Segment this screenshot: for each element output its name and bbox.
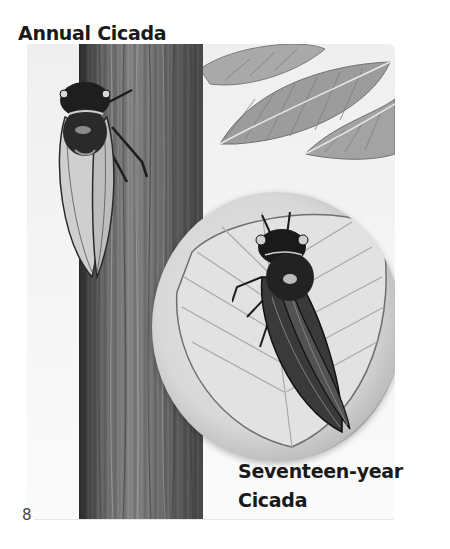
caption-line-1: Seventeen-year	[238, 457, 403, 486]
book-page: Annual Cicada Seventeen-year Cicada 8	[0, 0, 450, 549]
cicada-illustration	[27, 44, 395, 519]
caption-line-2: Cicada	[238, 486, 403, 515]
page-number: 8	[22, 506, 32, 524]
seventeen-year-cicada	[232, 207, 362, 437]
annual-cicada	[47, 72, 157, 287]
background-leaves	[195, 44, 395, 174]
caption-annual-cicada: Annual Cicada	[18, 22, 166, 44]
page-baseline-rule	[34, 519, 394, 520]
leaf-inset-circle	[152, 192, 395, 462]
caption-seventeen-year-cicada: Seventeen-year Cicada	[238, 457, 403, 515]
